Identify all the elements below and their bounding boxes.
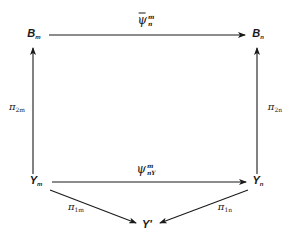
label-pi-2m-base: π (9, 101, 16, 112)
node-b-m-sub: m (35, 34, 40, 40)
node-y-n-sub: n (260, 181, 264, 187)
label-pi-2n-sub: 2n (274, 106, 282, 113)
commutative-diagram: Bm Bn Ym Yn Y' ψmn ψmnY π2m π2n π1m π1n (0, 0, 291, 240)
label-top-psi-bar: ψmn (138, 9, 155, 28)
label-pi-2m: π2m (9, 102, 25, 115)
label-top-base: ψ (138, 13, 147, 27)
arrow-diag-yn-to-yprime (160, 190, 248, 223)
label-pi-1m: π1m (68, 202, 84, 215)
label-top-sup: m (148, 12, 154, 19)
label-pi-2m-sub: 2m (16, 106, 26, 113)
label-top-sub: n (148, 19, 154, 26)
node-b-m-base: B (27, 27, 35, 39)
node-b-n: Bn (252, 27, 264, 43)
label-middle-psi: ψmnY (136, 158, 155, 177)
node-y-prime-base: Y' (142, 218, 152, 230)
node-y-m: Ym (30, 174, 43, 190)
label-pi-1m-sub: 1m (75, 206, 85, 213)
arrow-diag-ym-to-yprime (50, 190, 136, 223)
arrow-layer (0, 0, 291, 240)
node-b-m: Bm (27, 27, 40, 43)
node-b-n-sub: n (260, 34, 264, 40)
node-y-n: Yn (252, 174, 263, 190)
label-middle-sub: nY (147, 168, 156, 175)
label-middle-base: ψ (136, 162, 145, 176)
label-middle-sup: m (147, 161, 156, 168)
label-pi-1m-base: π (68, 201, 75, 212)
node-y-m-sub: m (37, 181, 42, 187)
node-y-prime: Y' (142, 218, 152, 230)
label-pi-1n: π1n (218, 202, 232, 215)
node-b-n-base: B (252, 27, 260, 39)
label-pi-2n: π2n (268, 102, 282, 115)
label-pi-1n-sub: 1n (224, 206, 232, 213)
